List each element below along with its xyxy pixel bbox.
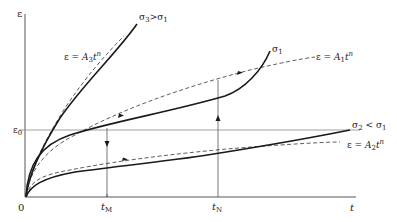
- sigma2-curve: [26, 130, 350, 197]
- A1-dashed-fit: [26, 57, 315, 196]
- A1-arrow-icon: [118, 114, 124, 119]
- sigma2-label: σ2 < σ1: [352, 120, 387, 132]
- A3-fit-label: ε = A3tn: [64, 50, 102, 64]
- tM-label: tM: [101, 201, 112, 214]
- epsilon0-label: ε0: [13, 125, 22, 137]
- y-axis-label: ε: [17, 8, 22, 19]
- A1-arrow2-icon: [237, 71, 243, 75]
- creep-strain-diagram: ε t 0 ε0 tM tN σ3>σ1 σ1 σ2 < σ1 ε = A3tn…: [0, 0, 397, 222]
- x-axis-label: t: [350, 202, 355, 213]
- tN-label: tN: [212, 201, 222, 214]
- A1-fit-label: ε = A1tn: [316, 50, 354, 64]
- down-arrow-icon: [105, 141, 110, 147]
- A2-dashed-fit: [26, 142, 340, 196]
- sigma3-label: σ3>σ1: [139, 12, 168, 24]
- A2-fit-label: ε = A2tn: [347, 138, 385, 152]
- origin-label: 0: [18, 202, 24, 213]
- sigma1-label: σ1: [272, 44, 283, 56]
- up-arrow-icon: [216, 115, 221, 121]
- tM-transition: [105, 128, 110, 197]
- sigma3-curve: [26, 24, 137, 196]
